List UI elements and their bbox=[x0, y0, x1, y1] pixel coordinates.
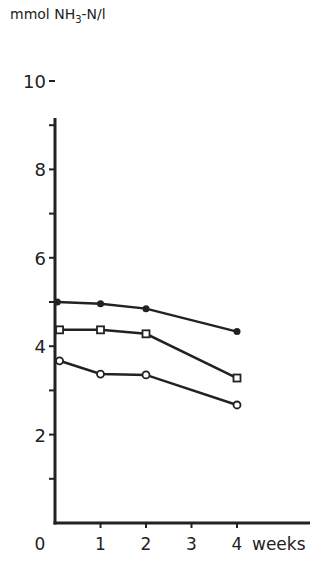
open-square-marker bbox=[234, 375, 241, 382]
x-tick-label: 1 bbox=[95, 534, 106, 554]
open-square-marker bbox=[97, 326, 104, 333]
filled-circle-marker bbox=[97, 300, 104, 307]
y-tick-label: 4 bbox=[35, 336, 46, 357]
y-tick-label: 8 bbox=[35, 159, 46, 180]
filled-circle-marker bbox=[234, 328, 241, 335]
x-tick-label: 4 bbox=[232, 534, 243, 554]
series-line bbox=[60, 361, 237, 405]
y-tick-label: 6 bbox=[35, 248, 46, 269]
data-series bbox=[54, 299, 241, 409]
y-tick-label: 10 bbox=[23, 71, 46, 92]
x-tick-label: 0 bbox=[35, 534, 46, 554]
y-tick-label: 2 bbox=[35, 425, 46, 446]
x-tick-label: 3 bbox=[186, 534, 197, 554]
open-square-marker bbox=[143, 330, 150, 337]
axes: 24681001234weeks bbox=[23, 71, 310, 554]
open-circle-marker bbox=[97, 371, 104, 378]
filled-circle-marker bbox=[143, 305, 150, 312]
open-circle-marker bbox=[143, 371, 150, 378]
open-circle-marker bbox=[234, 401, 241, 408]
open-square-marker bbox=[56, 326, 63, 333]
line-chart: 24681001234weeks bbox=[0, 0, 325, 567]
x-tick-label: 2 bbox=[141, 534, 152, 554]
x-axis-label: weeks bbox=[252, 534, 306, 554]
open-circle-marker bbox=[56, 357, 63, 364]
filled-circle-marker bbox=[54, 299, 61, 306]
